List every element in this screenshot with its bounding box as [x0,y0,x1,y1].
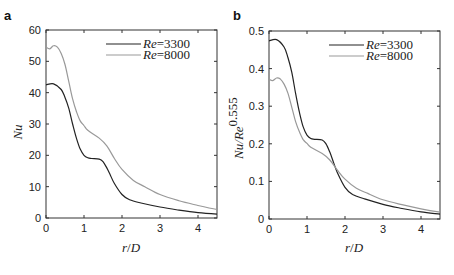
y-axis-label-b: Nu/Re0.555 [225,97,246,160]
y-tick-label: 50 [29,55,41,67]
x-tick-label: 1 [81,222,87,234]
figure-canvas: a 0102030405060 01234 Nu r/D Re=3300 Re=… [0,0,454,275]
panel-label-b: b [233,8,241,23]
legend-a: Re=3300 Re=8000 [106,36,190,62]
y-tick-label: 30 [29,118,41,130]
data-series-b [269,39,440,214]
x-tick-label: 3 [157,222,163,234]
y-tick-label: 0.4 [249,63,264,75]
x-tick-label: 2 [342,223,348,235]
panel-label-a: a [4,8,12,23]
data-series-a [46,46,217,215]
y-tick-label: 0.3 [249,100,264,112]
chart-panel-b: b 00.10.20.30.40.5 01234 Nu/Re0.555 r/D … [225,8,440,255]
x-tick-label: 0 [266,223,272,235]
y-tick-label: 10 [29,181,41,193]
chart-panel-a: a 0102030405060 01234 Nu r/D Re=3300 Re=… [4,8,217,255]
x-tick-label: 4 [418,223,424,235]
y-tick-label: 0.2 [249,138,264,150]
x-axis-label-a: r/D [122,240,141,255]
y-tick-label: 0 [258,213,264,225]
series-line-re-8000 [269,78,440,212]
y-tick-label: 0.5 [249,25,264,37]
series-line-re-3300 [269,39,440,214]
x-tick-label: 0 [43,222,49,234]
y-tick-label: 60 [29,24,41,36]
x-axis-label-b: r/D [345,240,364,255]
y-axis-label-a: Nu [10,124,25,141]
plot-frame-a [46,30,217,218]
x-tick-label: 3 [380,223,386,235]
series-line-re-3300 [46,84,217,215]
legend-b: Re=3300 Re=8000 [329,37,413,63]
x-tick-label: 1 [304,223,310,235]
x-tick-label: 2 [119,222,125,234]
legend-label-8000: Re=8000 [142,47,190,62]
series-line-re-8000 [46,46,217,210]
y-tick-label: 0.1 [249,175,264,187]
x-tick-label: 4 [195,222,201,234]
legend-label-8000: Re=8000 [365,48,413,63]
y-tick-label: 40 [29,87,41,99]
y-tick-label: 20 [29,149,41,161]
y-tick-label: 0 [35,212,41,224]
plot-frame-b [269,31,440,219]
